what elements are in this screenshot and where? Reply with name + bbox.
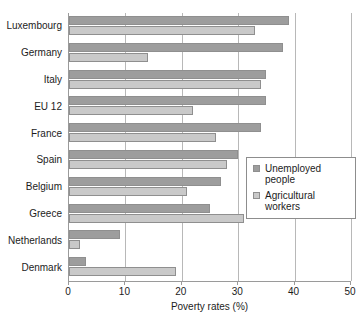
y-axis-label: France	[0, 129, 62, 139]
bar	[69, 53, 148, 62]
x-axis-tick	[350, 281, 351, 285]
bar	[69, 106, 193, 115]
bar-group	[69, 13, 350, 40]
y-axis-label: Belgium	[0, 182, 62, 192]
x-axis-title: Poverty rates (%)	[68, 301, 351, 312]
bar	[69, 160, 227, 169]
bar-group	[69, 67, 350, 94]
x-axis-tick	[237, 281, 238, 285]
bar	[69, 16, 289, 25]
chart-legend: Unemployed people Agricultural workers	[246, 157, 356, 219]
y-axis-label: Netherlands	[0, 236, 62, 246]
bar	[69, 240, 80, 249]
y-axis-label: Italy	[0, 75, 62, 85]
y-axis-label: Denmark	[0, 263, 62, 273]
legend-label-agricultural-workers: Agricultural workers	[265, 190, 349, 212]
bar	[69, 123, 261, 132]
x-axis-tick-label: 50	[335, 287, 364, 297]
y-axis-label: Spain	[0, 155, 62, 165]
legend-label-unemployed-people: Unemployed people	[265, 163, 349, 185]
bar	[69, 177, 221, 186]
bar	[69, 257, 86, 266]
legend-item-unemployed-people: Unemployed people	[253, 163, 349, 185]
x-axis-tick	[124, 281, 125, 285]
bar	[69, 133, 216, 142]
y-axis-label: Germany	[0, 48, 62, 58]
bar	[69, 187, 187, 196]
bar	[69, 96, 266, 105]
bar-group	[69, 40, 350, 67]
x-axis-tick	[181, 281, 182, 285]
bar	[69, 204, 210, 213]
bar	[69, 150, 238, 159]
legend-swatch-unemployed-people	[253, 165, 260, 172]
y-axis-label: EU 12	[0, 102, 62, 112]
legend-item-agricultural-workers: Agricultural workers	[253, 190, 349, 212]
bar	[69, 230, 120, 239]
poverty-rates-bar-chart: LuxembourgGermanyItalyEU 12FranceSpainBe…	[0, 0, 364, 315]
bar-group	[69, 120, 350, 147]
bar	[69, 214, 244, 223]
plot-area	[68, 13, 350, 281]
bar-group	[69, 227, 350, 254]
x-axis-tick-label: 0	[53, 287, 83, 297]
y-axis-label: Luxembourg	[0, 21, 62, 31]
x-axis-tick	[294, 281, 295, 285]
bar-group	[69, 93, 350, 120]
x-axis-tick-label: 20	[166, 287, 196, 297]
bar	[69, 70, 266, 79]
gridline-50	[351, 13, 352, 281]
bar-group	[69, 254, 350, 281]
bar	[69, 267, 176, 276]
x-axis-tick	[68, 281, 69, 285]
legend-swatch-agricultural-workers	[253, 192, 260, 199]
bar	[69, 26, 255, 35]
x-axis-tick-label: 10	[109, 287, 139, 297]
x-axis-tick-label: 40	[279, 287, 309, 297]
bar	[69, 80, 261, 89]
bar	[69, 43, 283, 52]
x-axis-line	[68, 281, 351, 282]
x-axis-tick-label: 30	[222, 287, 252, 297]
y-axis-label: Greece	[0, 209, 62, 219]
